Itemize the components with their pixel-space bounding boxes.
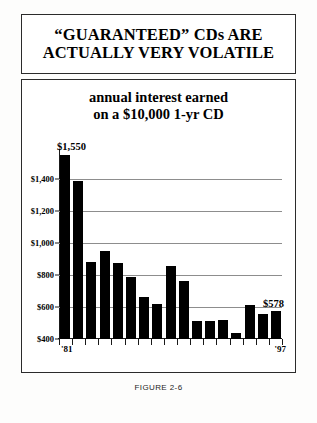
y-axis-tick-label: $600: [37, 302, 54, 312]
headline-text: “GUARANTEED” CDs ARE ACTUALLY VERY VOLAT…: [39, 26, 278, 62]
chart-title-line-1: annual interest earned: [22, 89, 295, 106]
x-axis-tick: [230, 339, 231, 345]
plot-inner: $400$600$800$1,000$1,200$1,400 '81'97 $1…: [59, 155, 282, 339]
bar-y97: [271, 311, 281, 339]
x-axis-label-start: '81: [61, 344, 73, 354]
headline-line-2: ACTUALLY VERY VOLATILE: [43, 44, 274, 62]
y-axis-tick-label: $800: [37, 270, 54, 280]
bar-y86: [126, 277, 136, 339]
end-value-label: $578: [263, 298, 284, 309]
bar-y93: [218, 320, 228, 339]
chart-title: annual interest earned on a $10,000 1-yr…: [22, 89, 295, 123]
headline-box: “GUARANTEED” CDs ARE ACTUALLY VERY VOLAT…: [21, 14, 296, 74]
x-axis-ticks-group: [59, 339, 282, 345]
y-axis-tick-label: $1,000: [31, 238, 54, 248]
bar-y95: [245, 305, 255, 339]
chart-title-line-2: on a $10,000 1-yr CD: [22, 106, 295, 123]
bars-group: [59, 155, 282, 339]
x-axis-tick: [164, 339, 165, 345]
bar-y96: [258, 314, 268, 339]
plot-area: $400$600$800$1,000$1,200$1,400 '81'97 $1…: [59, 155, 282, 339]
headline-line-1: “GUARANTEED” CDs ARE: [43, 26, 274, 44]
x-axis-tick: [151, 339, 152, 345]
x-axis-tick: [177, 339, 178, 345]
bar-y92: [205, 321, 215, 339]
y-axis-tick-label: $1,200: [31, 206, 54, 216]
bar-y83: [86, 262, 96, 339]
x-axis-tick: [59, 339, 60, 345]
x-axis-tick: [243, 339, 244, 345]
y-axis-tick-label: $1,400: [31, 174, 54, 184]
y-axis-tick-label: $400: [37, 334, 54, 344]
x-axis-tick: [190, 339, 191, 345]
bar-y82: [73, 181, 83, 339]
bar-y85: [113, 263, 123, 339]
x-axis-tick: [125, 339, 126, 345]
bar-y81: [60, 155, 70, 339]
x-axis-tick: [269, 339, 270, 345]
bar-y84: [100, 251, 110, 339]
x-axis-tick: [203, 339, 204, 345]
figure-caption: FIGURE 2-6: [0, 383, 317, 392]
bar-y89: [166, 266, 176, 339]
bar-y87: [139, 297, 149, 339]
peak-value-label: $1,550: [57, 141, 86, 152]
bar-y88: [152, 304, 162, 339]
x-axis-tick: [216, 339, 217, 345]
x-axis-tick: [111, 339, 112, 345]
x-axis-tick: [85, 339, 86, 345]
bar-y91: [192, 321, 202, 339]
chart-container: annual interest earned on a $10,000 1-yr…: [21, 79, 296, 373]
x-axis-tick: [138, 339, 139, 345]
bar-y90: [179, 281, 189, 339]
x-axis-tick: [98, 339, 99, 345]
x-axis-label-end: '97: [274, 344, 286, 354]
x-axis-tick: [256, 339, 257, 345]
